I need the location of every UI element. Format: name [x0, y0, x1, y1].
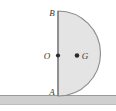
point-o-dot [56, 53, 60, 57]
semicircle-diagram: B O G A [0, 0, 116, 111]
semicircular-lamina [58, 11, 101, 96]
semicircular-lamina-group [58, 11, 101, 96]
point-g-dot [75, 53, 80, 58]
figure-canvas: B O G A [0, 0, 116, 111]
point-label-a: A [48, 87, 55, 97]
point-label-g: G [82, 51, 89, 61]
point-label-o: O [44, 51, 51, 61]
point-label-b: B [49, 8, 55, 18]
